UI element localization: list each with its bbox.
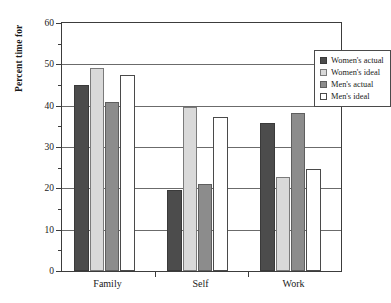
legend-label: Men's ideal — [331, 92, 370, 101]
x-category-label: Self — [192, 278, 208, 289]
bar — [291, 113, 306, 271]
bar — [260, 123, 275, 271]
legend-label: Women's ideal — [331, 68, 380, 77]
y-axis-title: Percent time for — [14, 0, 28, 92]
x-tick — [248, 271, 249, 277]
bar — [276, 177, 291, 271]
bar — [213, 117, 228, 271]
y-tick-label: 30 — [45, 142, 55, 152]
legend-label: Men's actual — [331, 80, 373, 89]
y-tick-label: 0 — [49, 266, 54, 276]
chart-legend: Women's actualWomen's idealMen's actualM… — [314, 50, 391, 107]
bar — [90, 68, 105, 271]
legend-swatch-icon — [320, 81, 327, 88]
legend-item: Women's actual — [320, 55, 384, 66]
legend-swatch-icon — [320, 69, 327, 76]
y-tick-label: 40 — [45, 101, 55, 111]
bar — [198, 184, 213, 271]
legend-item: Women's ideal — [320, 67, 384, 78]
bar — [167, 190, 182, 271]
legend-swatch-icon — [320, 57, 327, 64]
y-tick-label: 50 — [45, 59, 55, 69]
legend-item: Men's ideal — [320, 91, 384, 102]
x-category-label: Family — [93, 278, 121, 289]
bar — [120, 75, 135, 271]
y-tick-label: 10 — [45, 225, 55, 235]
x-category-label: Work — [283, 278, 305, 289]
bar — [183, 107, 198, 271]
x-tick — [155, 271, 156, 277]
bar — [306, 169, 321, 271]
y-tick-label: 20 — [45, 183, 55, 193]
legend-swatch-icon — [320, 93, 327, 100]
legend-label: Women's actual — [331, 56, 384, 65]
y-tick-major — [56, 271, 62, 272]
y-tick-label: 60 — [45, 18, 55, 28]
legend-item: Men's actual — [320, 79, 384, 90]
bar — [105, 102, 120, 271]
bars-layer — [62, 23, 341, 271]
plot-area: 0102030405060 Women's actualWomen's idea… — [61, 22, 342, 272]
bar — [74, 85, 89, 271]
